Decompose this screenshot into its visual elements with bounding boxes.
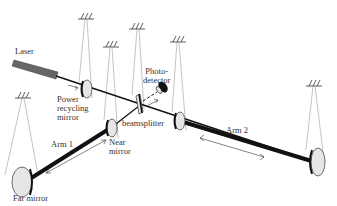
detector-beam xyxy=(143,92,157,101)
power-recycling-mirror-label: Power recycling mirror xyxy=(57,95,89,122)
near-mirror-label-line2: mirror xyxy=(109,147,131,156)
far-mirror-arm2-icon xyxy=(310,148,325,176)
detector-arrow-icon xyxy=(147,99,158,106)
beamsplitter-label: beamsplitter xyxy=(122,119,164,128)
beamsplitter-icon xyxy=(136,94,143,114)
near-mirror-label: Near mirror xyxy=(109,138,131,156)
photodetector-label-line2: detector xyxy=(143,76,170,85)
near-mirror-icon xyxy=(107,119,118,137)
arm2-input-mirror-icon xyxy=(175,112,186,130)
interferometer-diagram: Laser Power recycling mirror Photo- dete… xyxy=(0,0,337,206)
arm1-label: Arm 1 xyxy=(51,140,73,149)
arm2-label: Arm 2 xyxy=(226,126,248,135)
laser-icon xyxy=(12,60,58,79)
suspension-mounts xyxy=(15,13,322,98)
diagram-canvas xyxy=(0,0,337,206)
photodetector-label: Photo- detector xyxy=(143,67,170,85)
arm2-beam xyxy=(180,121,318,163)
laser-label: Laser xyxy=(15,47,34,56)
arm1-beam xyxy=(25,127,112,182)
input-arrow-icon xyxy=(68,85,78,90)
far-mirror-label: Far mirror xyxy=(13,194,48,203)
prm-label-line3: mirror xyxy=(57,113,89,122)
